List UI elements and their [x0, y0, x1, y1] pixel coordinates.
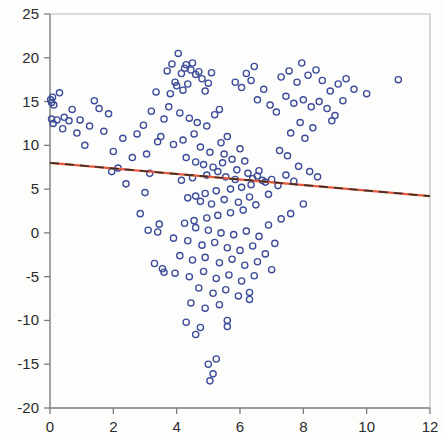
data-point: [185, 81, 191, 87]
data-point: [56, 90, 62, 96]
data-point: [215, 212, 221, 218]
data-point: [327, 88, 333, 94]
data-point: [74, 130, 80, 136]
data-point: [60, 126, 66, 132]
data-point: [197, 144, 203, 150]
data-point: [186, 274, 192, 280]
data-point: [213, 275, 219, 281]
chart-canvas: 2520151050-5-10-15-20024681012: [0, 0, 444, 437]
data-point: [197, 324, 203, 330]
data-point: [194, 119, 200, 125]
data-point: [251, 273, 257, 279]
data-point: [234, 167, 240, 173]
data-point: [105, 111, 111, 117]
data-point: [302, 135, 308, 141]
data-point: [238, 84, 244, 90]
data-point: [265, 191, 271, 197]
data-point: [283, 93, 289, 99]
x-tick-label: 4: [172, 418, 180, 435]
data-point: [200, 268, 206, 274]
data-point: [69, 106, 75, 112]
data-point: [307, 169, 313, 175]
data-point: [170, 235, 176, 241]
data-point: [299, 60, 305, 66]
data-point: [199, 76, 205, 82]
data-point: [207, 149, 213, 155]
data-point: [284, 153, 290, 159]
data-point: [193, 159, 199, 165]
data-point: [142, 190, 148, 196]
data-point: [235, 199, 241, 205]
data-point: [243, 228, 249, 234]
data-point: [213, 356, 219, 362]
data-point: [272, 240, 278, 246]
data-point: [340, 98, 346, 104]
scatter-series-observations: [48, 50, 402, 384]
data-point: [205, 227, 211, 233]
data-point: [288, 130, 294, 136]
x-tick-label: 10: [358, 418, 375, 435]
data-point: [226, 272, 232, 278]
data-point: [177, 110, 183, 116]
data-point: [191, 131, 197, 137]
data-point: [395, 77, 401, 83]
data-point: [77, 117, 83, 123]
data-point: [237, 247, 243, 253]
data-point: [297, 119, 303, 125]
data-point: [269, 267, 275, 273]
data-point: [202, 88, 208, 94]
data-point: [243, 70, 249, 76]
data-point: [200, 162, 206, 168]
data-point: [167, 91, 173, 97]
data-point: [248, 182, 254, 188]
scatter-plot-figure: 2520151050-5-10-15-20024681012: [0, 0, 444, 437]
data-point: [288, 211, 294, 217]
data-point: [240, 207, 246, 213]
data-point: [219, 160, 225, 166]
data-point: [193, 193, 199, 199]
data-point: [197, 198, 203, 204]
data-point: [335, 81, 341, 87]
data-point: [227, 186, 233, 192]
data-point: [221, 151, 227, 157]
data-point: [101, 128, 107, 134]
data-point: [250, 243, 256, 249]
data-point: [188, 300, 194, 306]
data-point: [185, 238, 191, 244]
data-point: [210, 290, 216, 296]
data-point: [212, 239, 218, 245]
data-point: [246, 296, 252, 302]
data-point: [210, 371, 216, 377]
data-point: [294, 79, 300, 85]
data-point: [148, 108, 154, 114]
data-point: [238, 278, 244, 284]
data-point: [286, 68, 292, 74]
y-tick-label: -15: [17, 355, 39, 372]
data-point: [262, 251, 268, 257]
data-point: [216, 260, 222, 266]
data-point: [193, 225, 199, 231]
data-point: [343, 76, 349, 82]
data-point: [278, 74, 284, 80]
data-point: [231, 232, 237, 238]
data-point: [164, 68, 170, 74]
data-point: [242, 262, 248, 268]
data-point: [215, 169, 221, 175]
data-point: [237, 146, 243, 152]
data-point: [204, 215, 210, 221]
data-point: [140, 122, 146, 128]
data-point: [229, 256, 235, 262]
data-point: [273, 109, 279, 115]
data-point: [300, 97, 306, 103]
data-point: [172, 270, 178, 276]
data-point: [191, 218, 197, 224]
x-tick-label: 8: [299, 418, 307, 435]
data-point: [242, 158, 248, 164]
x-tick-label: 12: [422, 418, 439, 435]
data-point: [155, 229, 161, 235]
data-point: [245, 170, 251, 176]
data-point: [169, 61, 175, 67]
data-point: [224, 317, 230, 323]
data-point: [183, 154, 189, 160]
data-point: [364, 91, 370, 97]
